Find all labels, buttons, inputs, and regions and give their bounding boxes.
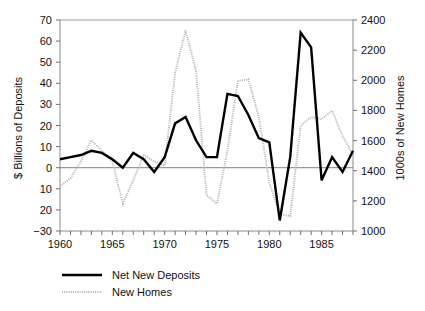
x-axis-tick-label: 1970: [152, 238, 176, 250]
right-axis-tick-label: 2400: [361, 14, 385, 26]
right-axis-tick-label: 1800: [361, 104, 385, 116]
left-axis-tick-label: 40: [40, 77, 52, 89]
left-axis-tick-label: 50: [40, 56, 52, 68]
x-axis-tick-label: 1960: [48, 238, 72, 250]
left-axis-tick-label: −30: [33, 225, 52, 237]
right-axis-tick-label: 1600: [361, 135, 385, 147]
left-axis-tick-label: 30: [40, 98, 52, 110]
right-axis-tick-label: 2000: [361, 74, 385, 86]
left-axis-tick-label: 10: [40, 141, 52, 153]
x-axis-tick-label: 1975: [205, 238, 229, 250]
dual-axis-line-chart: −302010010203040506070 10001200140016001…: [0, 0, 425, 311]
left-axis-tick-label: 10: [40, 183, 52, 195]
chart-container: −302010010203040506070 10001200140016001…: [0, 0, 425, 311]
left-axis-tick-label: 20: [40, 120, 52, 132]
left-axis-tick-label: 0: [46, 162, 52, 174]
left-axis-tick-label: 70: [40, 14, 52, 26]
left-axis-tick-label: 60: [40, 35, 52, 47]
right-axis-tick-label: 1400: [361, 165, 385, 177]
x-axis-tick-label: 1980: [257, 238, 281, 250]
legend-label: Net New Deposits: [112, 269, 201, 281]
x-axis-tick-label: 1985: [309, 238, 333, 250]
right-axis-tick-label: 1200: [361, 195, 385, 207]
x-axis-tick-label: 1965: [100, 238, 124, 250]
left-axis-tick-label: 20: [40, 204, 52, 216]
right-axis-title: 1000s of New Homes: [394, 75, 406, 181]
right-axis-tick-label: 1000: [361, 225, 385, 237]
right-axis-tick-label: 2200: [361, 44, 385, 56]
legend-label: New Homes: [112, 286, 172, 298]
left-axis-title: $ Billions of Deposits: [12, 76, 24, 179]
